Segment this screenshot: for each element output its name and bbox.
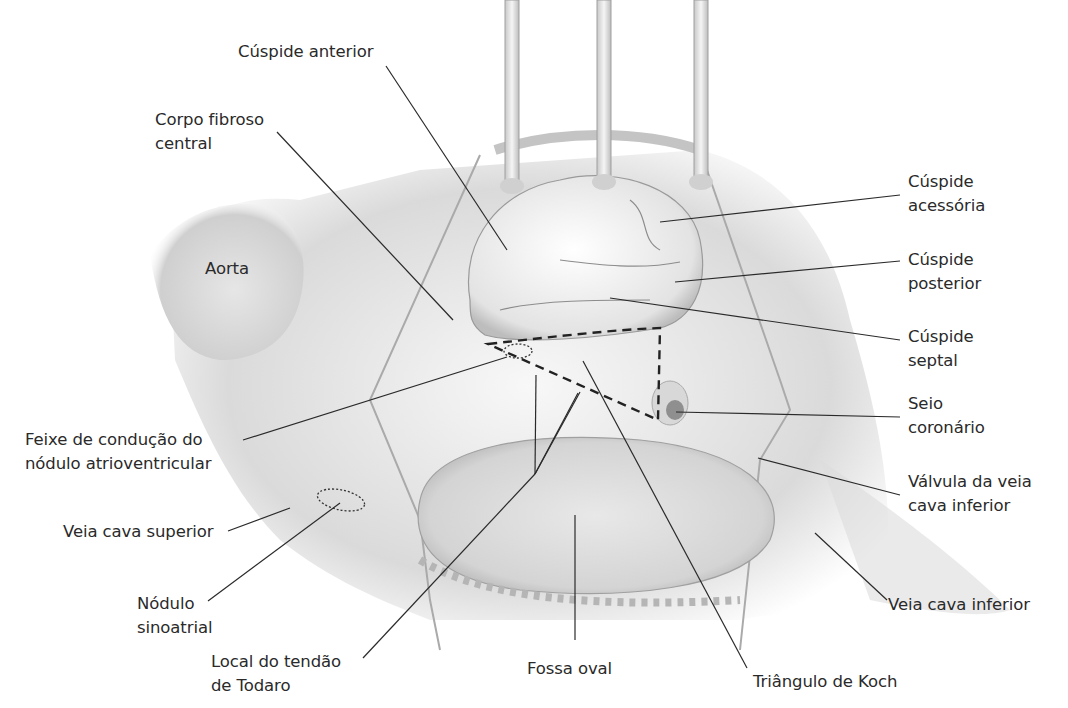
label-line: de Todaro [211,674,341,698]
label-line: acessória [908,194,985,218]
label-fossa-oval: Fossa oval [527,657,612,681]
label-corpo-fibroso-central: Corpo fibroso central [155,108,264,156]
label-cuspide-septal: Cúspide septal [908,325,974,373]
label-veia-cava-superior: Veia cava superior [63,520,214,544]
label-veia-cava-inferior: Veia cava inferior [888,593,1030,617]
label-line: Cúspide [908,170,985,194]
label-valvula-veia-cava-inferior: Válvula da veia cava inferior [908,470,1032,518]
label-seio-coronario: Seio coronário [908,392,985,440]
label-line: septal [908,349,974,373]
label-line: coronário [908,416,985,440]
label-line: nódulo atrioventricular [25,452,211,476]
label-line: Válvula da veia [908,470,1032,494]
label-line: Cúspide [908,248,981,272]
label-line: Feixe de condução do [25,428,211,452]
label-line: Local do tendão [211,650,341,674]
label-line: Aorta [205,257,249,281]
label-line: Corpo fibroso [155,108,264,132]
label-line: Seio [908,392,985,416]
label-nodulo-sinoatrial: Nódulo sinoatrial [137,592,212,640]
label-line: Nódulo [137,592,212,616]
label-line: posterior [908,272,981,296]
label-local-tendao-todaro: Local do tendão de Todaro [211,650,341,698]
label-line: Veia cava inferior [888,593,1030,617]
label-line: cava inferior [908,494,1032,518]
label-aorta: Aorta [205,257,249,281]
label-line: Cúspide anterior [238,40,373,64]
label-line: Triângulo de Koch [753,670,897,694]
label-triangulo-koch: Triângulo de Koch [753,670,897,694]
label-cuspide-acessoria: Cúspide acessória [908,170,985,218]
label-line: Cúspide [908,325,974,349]
label-cuspide-posterior: Cúspide posterior [908,248,981,296]
label-line: Fossa oval [527,657,612,681]
label-feixe-conducao-av: Feixe de condução do nódulo atrioventric… [25,428,211,476]
label-cuspide-anterior: Cúspide anterior [238,40,373,64]
label-line: central [155,132,264,156]
label-line: Veia cava superior [63,520,214,544]
label-line: sinoatrial [137,616,212,640]
